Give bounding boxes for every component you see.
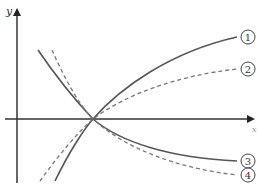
curve-label-2: 2 [241,62,255,76]
label-number: 3 [245,156,251,167]
label-number: 4 [245,170,251,181]
y-axis-label: y [5,5,13,18]
x-axis-label: x [252,125,257,134]
curve-label-4: 4 [241,168,255,182]
label-number: 1 [245,32,251,43]
curve-label-1: 1 [241,30,255,44]
curve-label-3: 3 [241,154,255,168]
curves-group [38,37,237,181]
curve-4 [52,50,237,175]
function-graph: y x 1234 [0,0,259,186]
label-number: 2 [245,64,251,75]
curve-2 [40,69,237,181]
curve-labels-group: 1234 [241,30,255,182]
